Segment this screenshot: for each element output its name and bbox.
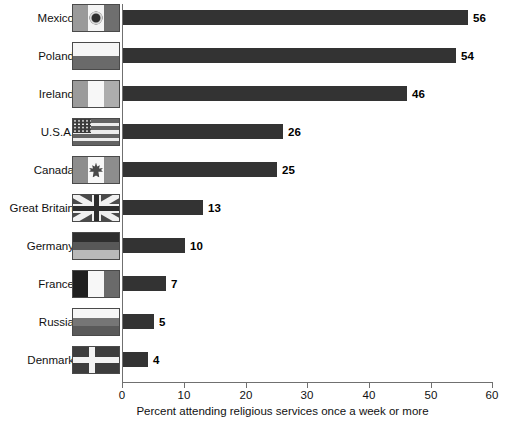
flag-france-icon	[72, 270, 120, 298]
bar-value-label: 7	[171, 269, 177, 299]
y-axis-line	[122, 4, 123, 382]
country-label: Germany	[0, 231, 74, 261]
x-tick	[122, 383, 123, 388]
chart-row: Canada 25	[0, 155, 509, 185]
country-label: Mexico	[0, 3, 74, 33]
bar	[123, 276, 166, 291]
bar-value-label: 4	[153, 345, 159, 375]
x-tick-label: 10	[164, 389, 204, 401]
x-tick	[246, 383, 247, 388]
flag-germany-icon	[72, 232, 120, 260]
flag-usa-icon	[72, 118, 120, 146]
flag-mexico-icon	[72, 4, 120, 32]
flag-denmark-icon	[72, 346, 120, 374]
chart-row: Ireland 46	[0, 79, 509, 109]
bar	[123, 352, 148, 367]
bar-chart: Mexico 56 Poland 54 Ireland 46 U.S.A.	[0, 0, 509, 436]
bar	[123, 162, 277, 177]
bar-value-label: 26	[288, 117, 301, 147]
denmark-cross-icon	[73, 347, 119, 373]
bar-value-label: 5	[159, 307, 165, 337]
bar	[123, 86, 407, 101]
country-label: Denmark	[0, 345, 74, 375]
bar	[123, 314, 154, 329]
x-tick-label: 50	[411, 389, 451, 401]
country-label: Russia	[0, 307, 74, 337]
mexico-emblem-icon	[90, 12, 103, 25]
flag-russia-icon	[72, 308, 120, 336]
bar-value-label: 54	[461, 41, 474, 71]
bar-value-label: 10	[190, 231, 203, 261]
chart-row: Denmark 4	[0, 345, 509, 375]
country-label: U.S.A.	[0, 117, 74, 147]
x-tick	[431, 383, 432, 388]
country-label: Poland	[0, 41, 74, 71]
chart-row: Mexico 56	[0, 3, 509, 33]
bar	[123, 200, 203, 215]
chart-row: U.S.A. 26	[0, 117, 509, 147]
bar	[123, 10, 468, 25]
union-jack-icon	[73, 195, 119, 221]
country-label: Ireland	[0, 79, 74, 109]
x-tick	[369, 383, 370, 388]
bar-value-label: 56	[473, 3, 486, 33]
usa-canton-icon	[73, 119, 91, 133]
bar-value-label: 25	[282, 155, 295, 185]
flag-poland-icon	[72, 42, 120, 70]
country-label: Great Britain	[0, 193, 74, 223]
flag-great-britain-icon	[72, 194, 120, 222]
chart-row: France 7	[0, 269, 509, 299]
bar	[123, 124, 283, 139]
chart-row: Great Britain 13	[0, 193, 509, 223]
country-label: Canada	[0, 155, 74, 185]
bar	[123, 238, 185, 253]
x-tick-label: 20	[226, 389, 266, 401]
bar-value-label: 46	[412, 79, 425, 109]
chart-row: Germany 10	[0, 231, 509, 261]
flag-canada-icon	[72, 156, 120, 184]
chart-row: Russia 5	[0, 307, 509, 337]
bar-value-label: 13	[208, 193, 221, 223]
country-label: France	[0, 269, 74, 299]
x-tick	[307, 383, 308, 388]
x-axis-title: Percent attending religious services onc…	[0, 405, 509, 417]
bar	[123, 48, 456, 63]
flag-ireland-icon	[72, 80, 120, 108]
x-tick-label: 30	[287, 389, 327, 401]
x-tick-label: 60	[472, 389, 509, 401]
chart-row: Poland 54	[0, 41, 509, 71]
x-tick-label: 0	[102, 389, 142, 401]
x-tick	[184, 383, 185, 388]
x-tick	[492, 383, 493, 388]
x-tick-label: 40	[349, 389, 389, 401]
